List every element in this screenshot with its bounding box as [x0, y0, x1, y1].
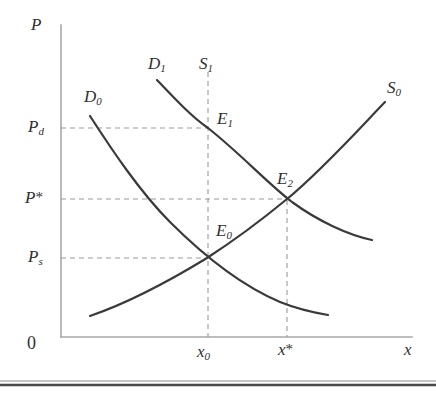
- tick-label-pd: Pd: [28, 118, 44, 135]
- tick-label-xstar: x*: [278, 341, 293, 358]
- axis-label-p: P: [31, 16, 41, 33]
- axis-origin-label: 0: [27, 334, 36, 352]
- plot-canvas: [0, 0, 436, 395]
- tick-label-pstar: P*: [25, 189, 43, 206]
- axis-label-x: x: [404, 341, 412, 358]
- tick-label-xstar-base: x: [278, 340, 286, 359]
- supply-demand-figure: P x 0 Pd P* Ps x0 x* D0 D1 S1 S0 E0 E1 E…: [0, 0, 436, 395]
- tick-label-ps-base: P: [28, 247, 38, 266]
- curve-label-d1: D1: [148, 55, 166, 72]
- tick-label-pstar-base: P: [25, 188, 35, 207]
- point-label-e1-sub: 1: [227, 117, 233, 129]
- curve-label-s0: S0: [387, 79, 401, 96]
- curve-label-d1-sub: 1: [160, 62, 166, 74]
- curve-label-s1-base: S: [199, 54, 208, 73]
- point-label-e2-sub: 2: [287, 177, 293, 189]
- point-label-e2: E2: [277, 170, 293, 187]
- curve-label-s1-sub: 1: [208, 62, 214, 74]
- tick-label-pd-sub: d: [38, 125, 44, 137]
- curve-label-s0-sub: 0: [396, 86, 402, 98]
- curve-label-d0-base: D: [84, 87, 96, 106]
- axis-origin-text: 0: [27, 333, 36, 353]
- tick-label-x0-base: x: [197, 342, 205, 361]
- point-label-e0: E0: [216, 222, 232, 239]
- curve-label-d1-base: D: [148, 54, 160, 73]
- point-label-e0-sub: 0: [226, 229, 232, 241]
- curve-label-d0-sub: 0: [96, 95, 102, 107]
- tick-label-x0: x0: [197, 343, 210, 360]
- curve-label-d0: D0: [84, 88, 102, 105]
- tick-label-ps: Ps: [28, 248, 43, 265]
- tick-label-xstar-sup: *: [286, 341, 294, 357]
- curve-label-s1: S1: [199, 55, 213, 72]
- axis-label-x-text: x: [404, 340, 412, 359]
- curve-d0: [90, 116, 328, 315]
- tick-label-pstar-sup: *: [35, 189, 43, 205]
- tick-label-pd-base: P: [28, 117, 38, 136]
- tick-label-ps-sub: s: [38, 255, 42, 267]
- axis-label-p-text: P: [31, 15, 41, 34]
- curve-s0: [90, 102, 385, 316]
- point-label-e1: E1: [217, 110, 233, 127]
- point-label-e2-base: E: [277, 169, 287, 188]
- point-label-e0-base: E: [216, 221, 226, 240]
- curve-label-s0-base: S: [387, 78, 396, 97]
- point-label-e1-base: E: [217, 109, 227, 128]
- tick-label-x0-sub: 0: [205, 350, 211, 362]
